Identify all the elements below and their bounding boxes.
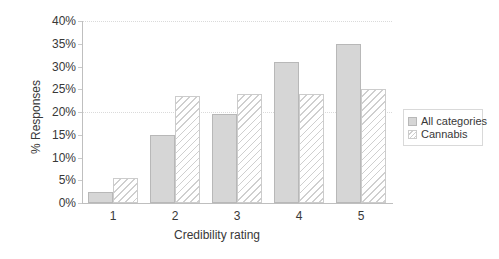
y-tick-label: 5% [36, 174, 76, 186]
legend-item-all-categories: All categories [408, 115, 478, 127]
y-tick-label: 10% [36, 152, 76, 164]
bar-cannabis-2 [175, 96, 200, 203]
bar-chart: % Responses Credibility rating All categ… [0, 0, 499, 259]
y-tick-mark [78, 203, 82, 204]
y-tick-mark [78, 158, 82, 159]
bar-cannabis-5 [361, 89, 386, 203]
x-tick-label-3: 3 [217, 210, 257, 222]
gridline-40 [83, 21, 392, 22]
bar-cannabis-3 [237, 94, 262, 203]
x-tick-label-4: 4 [279, 210, 319, 222]
y-tick-mark [78, 135, 82, 136]
y-tick-mark [78, 21, 82, 22]
y-tick-mark [78, 180, 82, 181]
y-tick-label: 30% [36, 61, 76, 73]
y-tick-label: 20% [36, 106, 76, 118]
y-tick-label: 35% [36, 38, 76, 50]
y-tick-mark [78, 44, 82, 45]
bar-all-categories-1 [88, 192, 113, 203]
y-tick-label: 40% [36, 15, 76, 27]
x-tick-label-1: 1 [93, 210, 133, 222]
solid-swatch-icon [408, 117, 417, 126]
y-tick-label: 25% [36, 83, 76, 95]
legend-label-all-categories: All categories [421, 115, 487, 127]
y-tick-label: 15% [36, 129, 76, 141]
hatched-swatch-icon [408, 130, 417, 139]
x-axis-line [82, 203, 393, 204]
x-axis-title: Credibility rating [42, 228, 392, 242]
bar-all-categories-2 [150, 135, 175, 203]
legend-item-cannabis: Cannabis [408, 128, 478, 140]
legend-label-cannabis: Cannabis [421, 128, 467, 140]
y-tick-label: 0% [36, 197, 76, 209]
bar-all-categories-3 [212, 114, 237, 203]
x-tick-label-2: 2 [155, 210, 195, 222]
bar-cannabis-1 [113, 178, 138, 203]
x-tick-label-5: 5 [341, 210, 381, 222]
legend: All categories Cannabis [403, 109, 483, 146]
y-tick-mark [78, 89, 82, 90]
y-tick-mark [78, 67, 82, 68]
bar-all-categories-5 [336, 44, 361, 203]
y-tick-mark [78, 112, 82, 113]
bar-cannabis-4 [299, 94, 324, 203]
bar-all-categories-4 [274, 62, 299, 203]
